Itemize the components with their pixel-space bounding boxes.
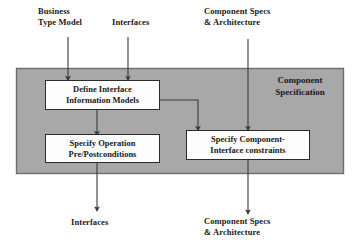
process-label-specify-component-interface-constraints: Specify Component- Interface constraints	[187, 134, 309, 156]
output-label-interfaces: Interfaces	[71, 217, 151, 228]
output-label-component-specs-architecture: Component Specs & Architecture	[204, 216, 324, 237]
process-label-specify-operation-pre-postconditions: Specify Operation Pre/Postconditions	[46, 138, 159, 160]
process-box-define-interface-information-models[interactable]: Define Interface Information Models	[45, 80, 160, 110]
process-label-define-interface-information-models: Define Interface Information Models	[46, 84, 159, 106]
input-label-business-type-model: Business Type Model	[38, 6, 114, 27]
diagram-canvas	[0, 0, 352, 247]
process-box-specify-component-interface-constraints[interactable]: Specify Component- Interface constraints	[186, 130, 310, 160]
input-label-interfaces: Interfaces	[112, 17, 182, 28]
container-title-component-specification: Component Specification	[258, 75, 342, 98]
component-specification-diagram: Business Type Model Interfaces Component…	[0, 0, 352, 247]
input-label-component-specs-architecture: Component Specs & Architecture	[204, 6, 324, 27]
process-box-specify-operation-pre-postconditions[interactable]: Specify Operation Pre/Postconditions	[45, 134, 160, 163]
